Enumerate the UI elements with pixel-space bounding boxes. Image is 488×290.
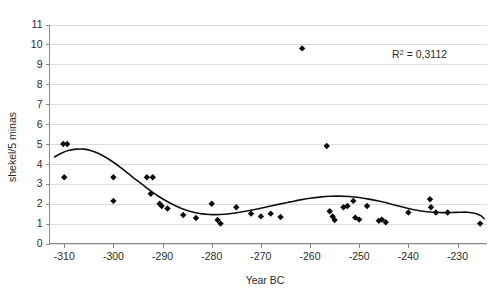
y-tick-label-10: 10 — [31, 38, 43, 50]
y-axis-title: shekel/5 minas — [6, 112, 18, 182]
y-tick-label-2: 2 — [37, 197, 43, 209]
x-tick-label--230: -230 — [447, 250, 468, 262]
x-tick-label--240: -240 — [398, 250, 419, 262]
r-squared-value: = 0,3112 — [404, 48, 447, 60]
y-tick-label-0: 0 — [37, 237, 43, 249]
y-tick-label-5: 5 — [37, 138, 43, 150]
x-tick-label--280: -280 — [201, 250, 222, 262]
y-tick-label-6: 6 — [37, 118, 43, 130]
x-tick-label--290: -290 — [152, 250, 173, 262]
x-axis-tick-labels: -310-300-290-280-270-260-250-240-230 — [54, 250, 468, 262]
chart-container: 01234567891011 -310-300-290-280-270-260-… — [0, 0, 488, 290]
y-tick-label-9: 9 — [37, 58, 43, 70]
x-tick-label--250: -250 — [349, 250, 370, 262]
x-tick-label--260: -260 — [300, 250, 321, 262]
x-axis-title: Year BC — [246, 274, 285, 286]
y-tick-label-3: 3 — [37, 177, 43, 189]
x-tick-label--310: -310 — [54, 250, 75, 262]
y-tick-label-4: 4 — [37, 158, 43, 170]
x-tick-label--300: -300 — [103, 250, 124, 262]
x-tick-label--270: -270 — [250, 250, 271, 262]
y-tick-label-1: 1 — [37, 217, 43, 229]
y-tick-label-11: 11 — [32, 18, 43, 30]
y-tick-label-7: 7 — [37, 98, 43, 110]
y-tick-label-8: 8 — [37, 78, 43, 90]
scatter-chart: 01234567891011 -310-300-290-280-270-260-… — [0, 0, 488, 290]
